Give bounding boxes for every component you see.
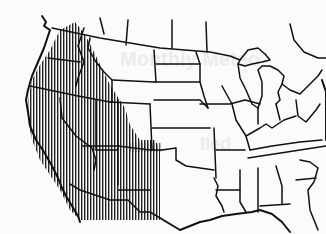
atlantic-coast: [322, 80, 326, 140]
great-lakes: [238, 48, 270, 66]
map-svg: [0, 0, 326, 234]
us-map: Monthly Meteo lled: [0, 0, 326, 234]
gulf-coast: [160, 210, 290, 232]
